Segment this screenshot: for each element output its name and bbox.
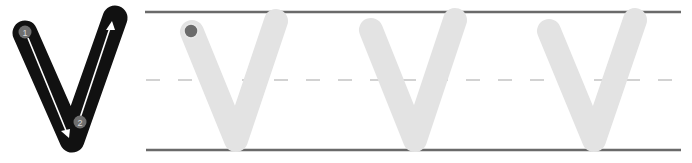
step-1-label: 1 [22, 28, 27, 38]
letter-v-worksheet: 1 2 [0, 0, 692, 163]
model-letter-v: 1 2 [19, 18, 116, 140]
model-v-stroke [25, 18, 115, 140]
step-2-label: 2 [77, 118, 82, 128]
trace-letter-v-3[interactable] [549, 20, 635, 140]
start-dot[interactable] [184, 24, 198, 38]
worksheet-canvas: 1 2 [0, 0, 692, 163]
trace-letter-v-1[interactable] [192, 21, 276, 140]
